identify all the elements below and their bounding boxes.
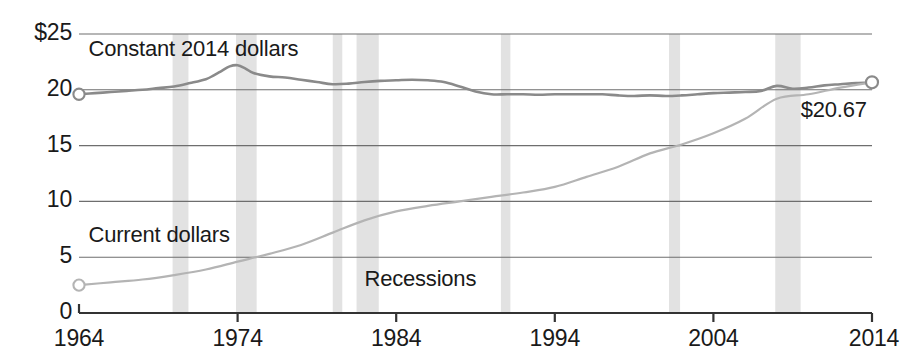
constant-dollars-start-marker [73, 89, 84, 100]
current-dollars-series-label: Current dollars [89, 222, 230, 248]
current-dollars-start-marker [73, 280, 84, 291]
y-axis-tick-label: 5 [59, 242, 72, 269]
x-axis-tick-label: 1994 [510, 325, 600, 352]
y-axis-tick-label: $25 [34, 19, 72, 46]
recession-band [501, 34, 511, 313]
x-axis-tick-label: 1984 [351, 325, 441, 352]
constant-dollars-line [79, 65, 872, 96]
chart-container: . . . . . . $2520151050 1964197419841994… [0, 0, 920, 362]
recession-band [333, 34, 343, 313]
x-axis-tick-label: 1964 [34, 325, 124, 352]
end-value-marker [866, 76, 878, 88]
y-axis-tick-label: 15 [47, 131, 72, 158]
y-axis-tick-label: 0 [59, 298, 72, 325]
x-tick-marks-group [238, 313, 872, 322]
y-axis-tick-label: 10 [47, 186, 72, 213]
current-dollars-line [79, 82, 872, 285]
recession-band [669, 34, 680, 313]
recessions-legend-label: Recessions [364, 266, 476, 292]
constant-dollars-series-label: Constant 2014 dollars [89, 36, 299, 62]
x-axis-tick-label: 2014 [829, 325, 919, 352]
series-lines-group [79, 65, 872, 285]
x-axis-tick-label: 1974 [193, 325, 283, 352]
recession-band [775, 34, 800, 313]
recession-band [173, 34, 189, 313]
end-value-label: $20.67 [801, 97, 867, 123]
y-axis-tick-label: 20 [47, 75, 72, 102]
axes-group [79, 304, 872, 313]
series-markers-group [73, 76, 878, 290]
recession-band [236, 34, 257, 313]
x-axis-tick-label: 2004 [668, 325, 758, 352]
